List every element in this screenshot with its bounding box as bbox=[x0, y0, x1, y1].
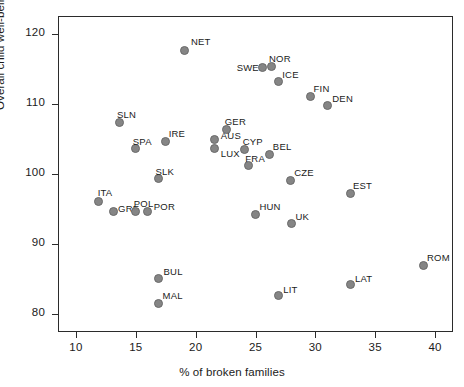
x-tick-mark bbox=[435, 332, 436, 338]
x-tick-mark bbox=[256, 332, 257, 338]
y-tick-mark bbox=[52, 244, 58, 245]
y-tick-mark bbox=[52, 104, 58, 105]
data-point-label-ger: GER bbox=[225, 116, 246, 127]
data-point-label-lux: LUX bbox=[221, 148, 240, 159]
x-tick-label: 25 bbox=[240, 341, 272, 353]
y-tick-label: 80 bbox=[32, 306, 45, 318]
data-point-label-por: POR bbox=[154, 201, 175, 212]
data-point-label-ire: IRE bbox=[169, 128, 185, 139]
x-tick-label: 20 bbox=[180, 341, 212, 353]
data-point-label-cze: CZE bbox=[294, 167, 314, 178]
x-tick-mark bbox=[136, 332, 137, 338]
x-tick-mark bbox=[375, 332, 376, 338]
data-point-label-den: DEN bbox=[332, 93, 353, 104]
x-tick-label: 10 bbox=[60, 341, 92, 353]
x-tick-label: 30 bbox=[299, 341, 331, 353]
data-point-label-net: NET bbox=[191, 36, 211, 47]
data-point-label-ice: ICE bbox=[282, 69, 298, 80]
y-tick-mark bbox=[52, 174, 58, 175]
data-point-label-swe: SWE bbox=[237, 62, 259, 73]
data-point-label-spa: SPA bbox=[133, 136, 152, 147]
data-point-label-mal: MAL bbox=[163, 290, 183, 301]
x-tick-mark bbox=[315, 332, 316, 338]
data-point-label-slk: SLK bbox=[156, 166, 175, 177]
data-point-label-uk: UK bbox=[295, 211, 309, 222]
data-point-label-bul: BUL bbox=[164, 266, 183, 277]
data-point-gre[interactable] bbox=[109, 207, 118, 216]
y-axis-title: Overall child well-being bbox=[0, 0, 6, 110]
data-point-label-sln: SLN bbox=[117, 109, 136, 120]
data-point-label-lit: LIT bbox=[283, 284, 297, 295]
y-tick-label: 120 bbox=[25, 26, 45, 38]
data-point-label-fra: FRA bbox=[245, 153, 265, 164]
data-point-label-aus: AUS bbox=[221, 130, 241, 141]
y-tick-label: 110 bbox=[26, 96, 45, 108]
data-point-label-est: EST bbox=[353, 180, 372, 191]
data-point-label-cyp: CYP bbox=[243, 136, 263, 147]
x-tick-mark bbox=[196, 332, 197, 338]
data-point-lat[interactable] bbox=[346, 280, 355, 289]
y-tick-mark bbox=[52, 314, 58, 315]
y-tick-mark bbox=[52, 34, 58, 35]
data-point-label-lat: LAT bbox=[355, 273, 372, 284]
y-tick-label: 100 bbox=[25, 166, 45, 178]
x-tick-label: 15 bbox=[120, 341, 152, 353]
data-point-lit[interactable] bbox=[274, 291, 283, 300]
x-tick-label: 35 bbox=[359, 341, 391, 353]
scatter-plot-figure: Overall child well-being 8090100110120 1… bbox=[0, 0, 464, 387]
y-tick-label: 90 bbox=[32, 236, 45, 248]
data-point-por[interactable] bbox=[143, 207, 152, 216]
data-point-label-nor: NOR bbox=[269, 53, 291, 64]
x-axis-title: % of broken families bbox=[0, 366, 464, 378]
x-tick-label: 40 bbox=[419, 341, 451, 353]
x-tick-mark bbox=[76, 332, 77, 338]
data-point-label-bel: BEL bbox=[273, 141, 292, 152]
data-point-label-rom: ROM bbox=[427, 252, 450, 263]
data-point-label-hun: HUN bbox=[260, 201, 281, 212]
data-point-label-fin: FIN bbox=[314, 83, 330, 94]
data-point-swe[interactable] bbox=[258, 63, 267, 72]
data-point-label-ita: ITA bbox=[98, 187, 113, 198]
